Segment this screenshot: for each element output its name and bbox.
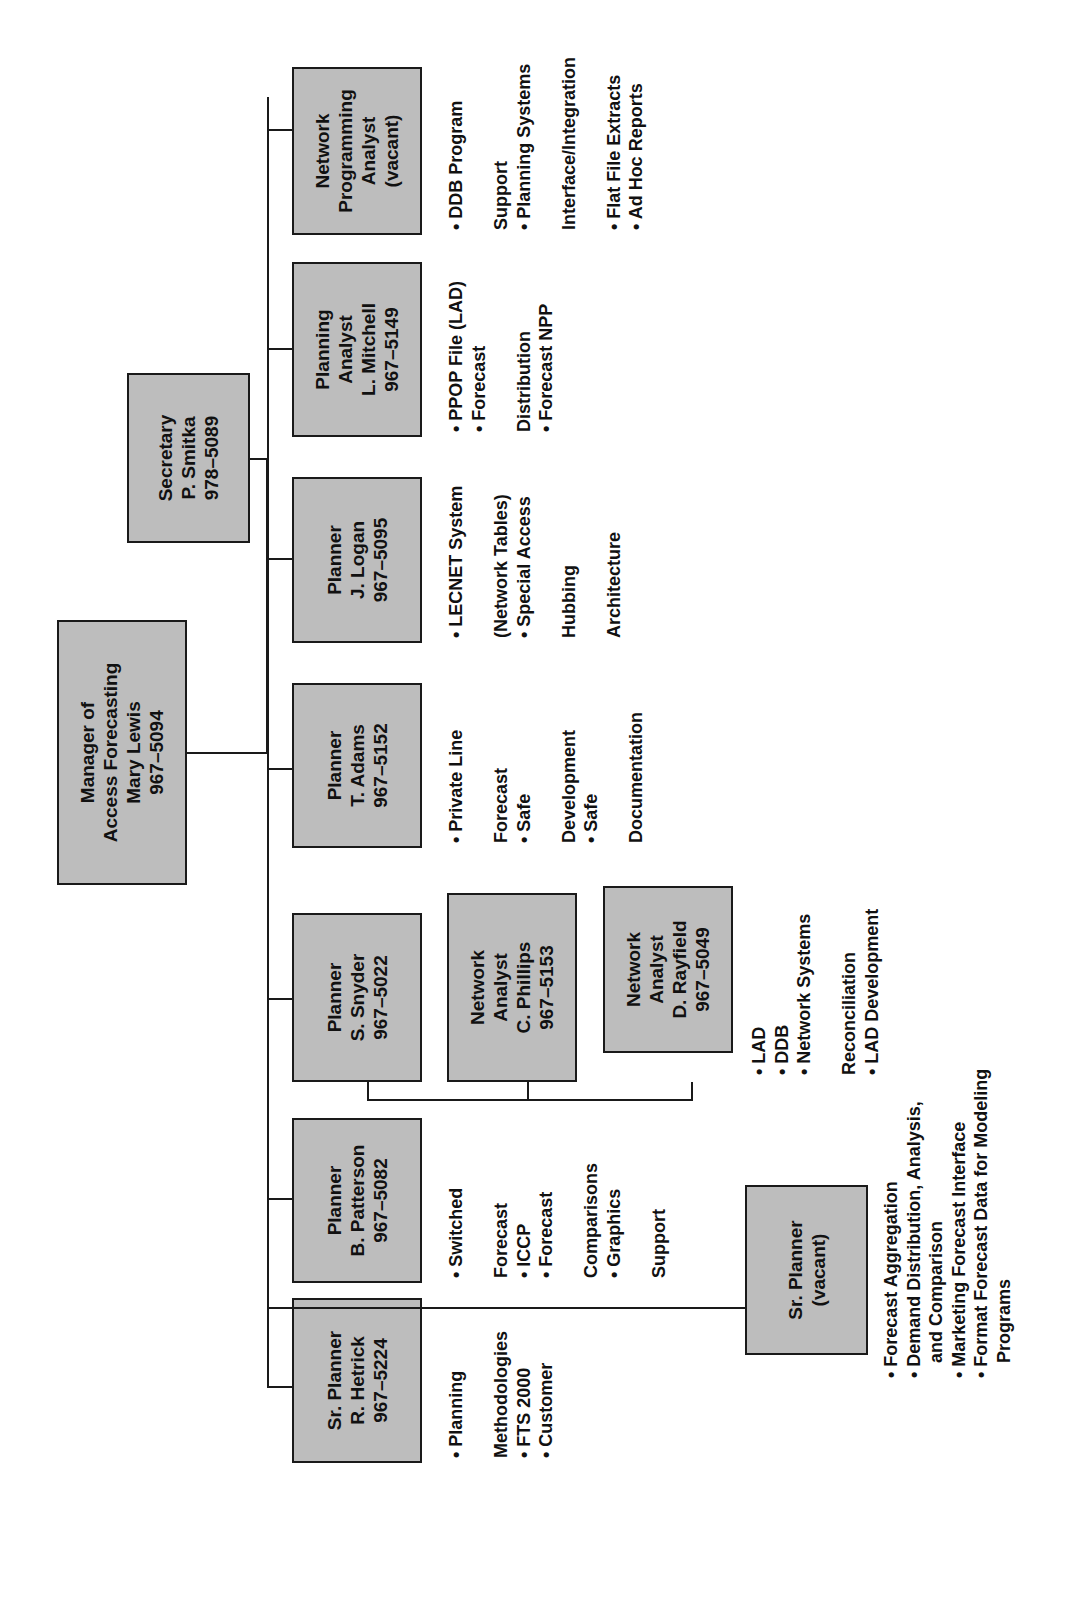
duties-list: • PPOP File (LAD)• ForecastDistribution•… [445, 281, 558, 432]
position-title: Planner [323, 525, 346, 595]
duty-item: • ICCP [513, 1163, 536, 1278]
position-phone: 967–5149 [380, 307, 403, 392]
duty-spacer [535, 486, 558, 638]
position-phone: 967–5022 [369, 955, 392, 1040]
manager-title-2: Access Forecasting [99, 663, 122, 843]
duty-spacer [535, 57, 558, 230]
position-title-line2: Analyst [334, 315, 357, 384]
box-sr-planner-vacant: Sr. Planner(vacant) [745, 1185, 868, 1355]
duty-item: • Forecast Aggregation [880, 1069, 903, 1378]
duty-item: Programs [993, 1069, 1016, 1378]
duty-spacer [580, 57, 603, 230]
box-snyder: PlannerS. Snyder967–5022 [292, 913, 422, 1082]
duty-spacer [468, 57, 491, 230]
box-logan: PlannerJ. Logan967–5095 [292, 477, 422, 643]
box-programming-analyst: NetworkProgrammingAnalyst(vacant) [292, 67, 422, 235]
duty-item: Forecast [490, 1163, 513, 1278]
sr-planner-vacant-name: (vacant) [807, 1234, 830, 1307]
duty-item: • Safe [580, 712, 603, 843]
duty-item: • Forecast [535, 1163, 558, 1278]
duty-spacer [816, 909, 839, 1075]
duty-item: • Format Forecast Data for Modeling [970, 1069, 993, 1378]
drop-line [267, 558, 294, 560]
position-phone: 967–5082 [369, 1158, 392, 1243]
position-title: Planner [323, 963, 346, 1033]
duties-list: • DDB ProgramSupport• Planning SystemsIn… [445, 57, 648, 230]
duty-item: Architecture [603, 486, 626, 638]
org-chart: Manager of Access Forecasting Mary Lewis… [0, 0, 1078, 1610]
secretary-phone: 978–5089 [200, 416, 223, 501]
duties-list: • SwitchedForecast• ICCP• ForecastCompar… [445, 1163, 670, 1278]
duty-item: • Graphics [603, 1163, 626, 1278]
duty-spacer [468, 486, 491, 638]
secretary-box: Secretary P. Smitka 978–5089 [127, 373, 250, 543]
box-rayfield: NetworkAnalystD. Rayfield967–5049 [603, 886, 733, 1053]
drop-line [267, 1386, 294, 1388]
duty-item: • LECNET System [445, 486, 468, 638]
duty-item: Development [558, 712, 581, 843]
position-title: Planner [323, 1166, 346, 1236]
snyder-bracket-stem-rayfield [691, 1082, 693, 1101]
duty-item: • Safe [513, 712, 536, 843]
duty-item: • Planning Systems [513, 57, 536, 230]
duty-item: • Flat File Extracts [603, 57, 626, 230]
position-name: B. Patterson [346, 1145, 369, 1257]
duty-item: • LAD Development [861, 909, 884, 1075]
position-title: Planner [323, 731, 346, 801]
duty-spacer [625, 1163, 648, 1278]
duty-item: • LAD [748, 909, 771, 1075]
duties-list: • Private LineForecast• SafeDevelopment•… [445, 712, 648, 843]
duties-list: • PlanningMethodologies• FTS 2000• Custo… [445, 1331, 558, 1458]
analyst-title-line2: Analyst [645, 935, 668, 1004]
duty-item: • Planning [445, 1331, 468, 1458]
drop-line [267, 348, 294, 350]
duty-item: • Network Systems [793, 909, 816, 1075]
duty-item: • DDB [771, 909, 794, 1075]
snyder-group-duties: • LAD• DDB• Network SystemsReconciliatio… [748, 909, 883, 1075]
secretary-name: P. Smitka [177, 416, 200, 499]
duty-item: Documentation [625, 712, 648, 843]
duty-item: • PPOP File (LAD) [445, 281, 468, 432]
duty-item: Distribution [513, 281, 536, 432]
duty-item: Interface/Integration [558, 57, 581, 230]
duty-item: • Ad Hoc Reports [625, 57, 648, 230]
manager-phone: 967–5094 [145, 710, 168, 795]
duty-item: • Switched [445, 1163, 468, 1278]
duty-item: • Customer [535, 1331, 558, 1458]
duty-item: • Forecast [468, 281, 491, 432]
duties-list: • LECNET System(Network Tables)• Special… [445, 486, 625, 638]
position-name: J. Logan [346, 521, 369, 599]
duty-item: Methodologies [490, 1331, 513, 1458]
duty-item: Support [648, 1163, 671, 1278]
position-title-line3: Analyst [357, 117, 380, 186]
analyst-phone: 967–5153 [535, 945, 558, 1030]
position-title-line1: Planning [311, 309, 334, 389]
connector-manager-to-trunk [187, 752, 268, 754]
duty-item: • DDB Program [445, 57, 468, 230]
duty-item: Forecast [490, 712, 513, 843]
sr-planner-vacant-duties: • Forecast Aggregation• Demand Distribut… [880, 1069, 1015, 1378]
manager-name: Mary Lewis [122, 701, 145, 803]
box-phillips: NetworkAnalystC. Phillips967–5153 [447, 893, 577, 1082]
duty-item: and Comparison [925, 1069, 948, 1378]
duty-spacer [535, 712, 558, 843]
drop-line [267, 768, 294, 770]
position-name: T. Adams [346, 724, 369, 807]
position-phone: 967–5095 [369, 518, 392, 603]
analyst-title-line1: Network [466, 950, 489, 1025]
box-patterson: PlannerB. Patterson967–5082 [292, 1118, 422, 1283]
analyst-title-line1: Network [622, 932, 645, 1007]
duty-spacer [468, 1163, 491, 1278]
duty-item: Comparisons [580, 1163, 603, 1278]
duty-spacer [468, 712, 491, 843]
duty-item: • Marketing Forecast Interface [948, 1069, 971, 1378]
duty-item: • Forecast NPP [535, 281, 558, 432]
box-mitchell: PlanningAnalystL. Mitchell967–5149 [292, 262, 422, 437]
position-phone: 967–5224 [369, 1338, 392, 1423]
duty-item: • Demand Distribution, Analysis, [903, 1069, 926, 1378]
duty-spacer [580, 486, 603, 638]
duty-item: Hubbing [558, 486, 581, 638]
position-name: R. Hetrick [346, 1336, 369, 1425]
position-phone: 967–5152 [369, 723, 392, 808]
duty-item: • Special Access [513, 486, 536, 638]
